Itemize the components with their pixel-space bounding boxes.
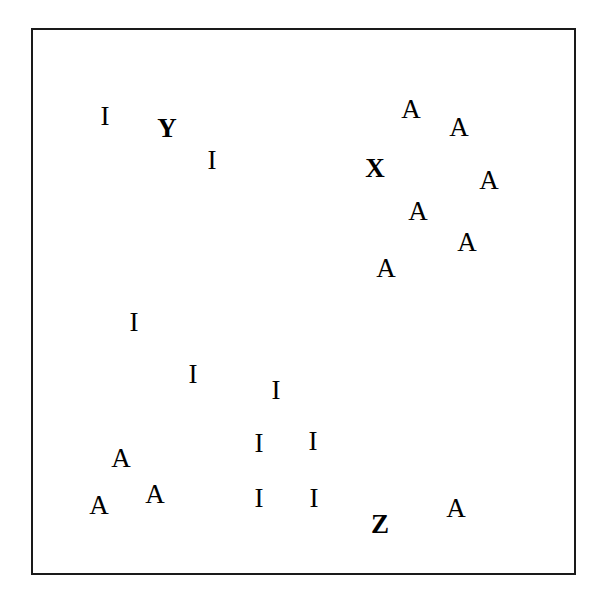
letter-glyph-a: A — [446, 495, 466, 522]
letter-glyph-a: A — [89, 492, 109, 519]
letter-glyph-x: X — [365, 155, 385, 182]
letter-glyph-i: I — [255, 430, 264, 457]
letter-glyph-a: A — [457, 229, 477, 256]
letter-glyph-y: Y — [157, 115, 177, 142]
letter-glyph-i: I — [255, 485, 264, 512]
letter-glyph-z: Z — [371, 511, 389, 538]
letter-glyph-a: A — [449, 114, 469, 141]
plot-frame — [31, 28, 576, 575]
letter-glyph-i: I — [208, 147, 217, 174]
letter-glyph-a: A — [376, 255, 396, 282]
letter-glyph-i: I — [130, 309, 139, 336]
letter-glyph-i: I — [310, 485, 319, 512]
letter-glyph-a: A — [145, 481, 165, 508]
letter-glyph-i: I — [189, 361, 198, 388]
letter-glyph-a: A — [479, 167, 499, 194]
figure-canvas: IYIAAXAAAAIIIAIIAAIIZA — [0, 0, 596, 601]
letter-glyph-i: I — [272, 377, 281, 404]
letter-glyph-a: A — [111, 445, 131, 472]
letter-glyph-a: A — [401, 96, 421, 123]
letter-glyph-i: I — [101, 103, 110, 130]
letter-glyph-a: A — [408, 198, 428, 225]
letter-glyph-i: I — [309, 428, 318, 455]
